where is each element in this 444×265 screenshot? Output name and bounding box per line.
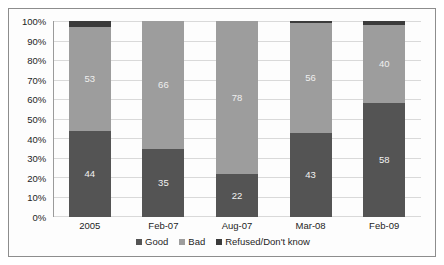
stacked-bar[interactable]: 4058 <box>363 21 405 217</box>
y-axis-tick-label: 70% <box>27 74 46 85</box>
x-axis-tick-label: Feb-07 <box>127 220 201 231</box>
x-axis-tick-label: Mar-08 <box>274 220 348 231</box>
chart-figure: 0%10%20%30%40%50%60%70%80%90%100% 534466… <box>8 8 436 257</box>
bar-group: 7822 <box>200 21 274 217</box>
bar-group: 5344 <box>53 21 127 217</box>
legend-label: Good <box>145 236 168 247</box>
y-axis-tick-label: 40% <box>27 133 46 144</box>
bar-segment[interactable]: 66 <box>142 21 184 149</box>
bar-segment[interactable]: 43 <box>290 133 332 217</box>
stacked-bar[interactable]: 5344 <box>69 21 111 217</box>
bar-group: 4058 <box>347 21 421 217</box>
x-axis: 2005Feb-07Aug-07Mar-08Feb-09 <box>53 220 421 231</box>
y-axis-tick-label: 10% <box>27 192 46 203</box>
stacked-bar[interactable]: 5643 <box>290 21 332 217</box>
bar-series-layer: 53446635782256434058 <box>53 21 421 217</box>
bar-value-label: 44 <box>85 169 96 179</box>
y-axis-tick-label: 80% <box>27 55 46 66</box>
bar-value-label: 22 <box>232 191 243 201</box>
bar-value-label: 35 <box>158 178 169 188</box>
legend-item[interactable]: Good <box>136 236 168 247</box>
bar-value-label: 53 <box>85 74 96 84</box>
bar-segment[interactable]: 22 <box>216 174 258 217</box>
y-axis-tick-label: 60% <box>27 94 46 105</box>
legend-item[interactable]: Bad <box>179 236 205 247</box>
bar-segment[interactable]: 58 <box>363 103 405 217</box>
y-axis-tick-label: 50% <box>27 114 46 125</box>
y-axis: 0%10%20%30%40%50%60%70%80%90%100% <box>9 21 49 217</box>
legend-label: Refused/Don't know <box>225 236 310 247</box>
bar-value-label: 66 <box>158 80 169 90</box>
y-axis-tick-label: 0% <box>32 212 46 223</box>
legend-swatch-icon <box>216 239 222 245</box>
bar-segment[interactable]: 56 <box>290 23 332 133</box>
y-axis-tick-label: 90% <box>27 35 46 46</box>
y-axis-tick-label: 20% <box>27 172 46 183</box>
bar-group: 5643 <box>274 21 348 217</box>
bar-value-label: 78 <box>232 93 243 103</box>
y-axis-tick-label: 100% <box>22 16 46 27</box>
bar-value-label: 43 <box>305 170 316 180</box>
legend-swatch-icon <box>179 239 185 245</box>
legend-label: Bad <box>188 236 205 247</box>
y-axis-tick-label: 30% <box>27 153 46 164</box>
bar-segment[interactable]: 40 <box>363 25 405 103</box>
bar-segment[interactable]: 35 <box>142 149 184 217</box>
stacked-bar[interactable]: 6635 <box>142 21 184 217</box>
legend-item[interactable]: Refused/Don't know <box>216 236 310 247</box>
stacked-bar[interactable]: 7822 <box>216 21 258 217</box>
x-axis-tick-label: Aug-07 <box>200 220 274 231</box>
bar-segment[interactable]: 53 <box>69 27 111 131</box>
bar-group: 6635 <box>127 21 201 217</box>
bar-value-label: 40 <box>379 59 390 69</box>
bar-value-label: 56 <box>305 73 316 83</box>
bar-value-label: 58 <box>379 155 390 165</box>
legend-swatch-icon <box>136 239 142 245</box>
chart-legend: GoodBadRefused/Don't know <box>9 236 437 247</box>
x-axis-tick-label: Feb-09 <box>347 220 421 231</box>
bar-segment[interactable]: 78 <box>216 21 258 174</box>
bar-segment[interactable]: 44 <box>69 131 111 217</box>
x-axis-tick-label: 2005 <box>53 220 127 231</box>
